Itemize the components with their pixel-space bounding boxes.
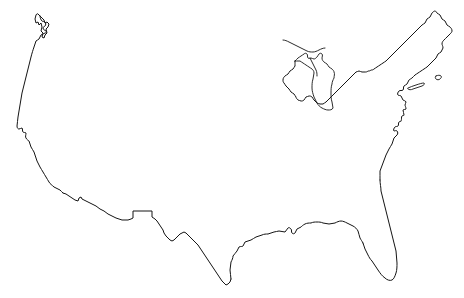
map-background	[0, 0, 464, 298]
map-figure	[0, 0, 464, 298]
us-outline-map	[0, 0, 464, 298]
